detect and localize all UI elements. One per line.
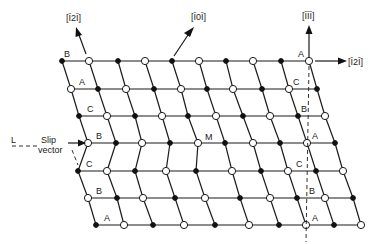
- lattice-column-line: [289, 89, 298, 116]
- atom-filled: [152, 87, 157, 92]
- atom-open: [249, 57, 256, 64]
- atom-filled: [296, 114, 301, 119]
- lattice-column-line: [353, 198, 361, 225]
- stacking-label-left: B: [96, 186, 102, 196]
- atom-filled: [133, 114, 138, 119]
- atom-filled: [115, 196, 120, 201]
- atom-open: [228, 167, 235, 174]
- lattice-column-line: [89, 61, 98, 89]
- lattice-column-line: [145, 61, 154, 89]
- lattice-column-line: [79, 116, 88, 143]
- lattice-column-line: [307, 143, 316, 171]
- lattice-column-line: [107, 116, 116, 143]
- lattice-column-line: [309, 61, 317, 89]
- direction-arrow-121-left: [76, 27, 87, 54]
- atom-open: [103, 112, 110, 119]
- lattice-column-line: [88, 198, 96, 225]
- lattice-column-line: [117, 198, 124, 225]
- lattice-column-line: [261, 171, 270, 198]
- direction-arrow-121-right: [315, 58, 347, 65]
- atom-filled: [205, 87, 210, 92]
- stacking-label-left: C: [86, 159, 93, 169]
- atom-open: [120, 221, 127, 228]
- stacking-label-left: B: [96, 131, 102, 141]
- atom-open: [285, 85, 292, 92]
- atom-filled: [194, 169, 199, 174]
- atom-filled: [168, 141, 173, 146]
- atom-open: [177, 85, 184, 92]
- atom-open: [284, 167, 291, 174]
- stacking-label-right: B: [309, 186, 315, 196]
- lattice-column-line: [240, 198, 249, 225]
- lattice-column-line: [126, 89, 135, 116]
- atom-open: [357, 221, 364, 228]
- atom-open: [138, 139, 145, 146]
- lattice-lines: [62, 61, 361, 225]
- lattice-column-line: [253, 61, 262, 89]
- lattice-column-line: [107, 171, 117, 198]
- lattice-column-line: [166, 171, 175, 198]
- lattice-column-line: [297, 198, 306, 225]
- lattice-column-line: [172, 61, 181, 89]
- atom-filled: [259, 169, 264, 174]
- lattice-column-line: [196, 171, 205, 198]
- lattice-column-line: [71, 89, 79, 116]
- lattice-column-line: [207, 89, 216, 116]
- lattice-column-line: [135, 143, 142, 171]
- atom-open: [321, 112, 328, 119]
- atom-open: [266, 112, 273, 119]
- stacking-label-left: C: [87, 104, 94, 114]
- lattice-column-line: [280, 143, 288, 171]
- lattice-column-line: [316, 171, 325, 198]
- lattice-column-line: [205, 198, 215, 225]
- slip-vector-annotation: L Slip vector: [11, 135, 86, 165]
- lattice-column-line: [175, 198, 184, 225]
- lattice-column-line: [118, 61, 126, 89]
- atom-open: [229, 85, 236, 92]
- lattice-column-line: [325, 116, 335, 143]
- lattice-column-line: [335, 143, 343, 171]
- atom-filled: [333, 141, 338, 146]
- atom-filled: [279, 59, 284, 64]
- atom-filled: [186, 114, 191, 119]
- lattice-column-line: [325, 198, 334, 225]
- lattice-column-line: [253, 143, 261, 171]
- atom-filled: [223, 141, 228, 146]
- atom-filled: [173, 196, 178, 201]
- lattice-column-line: [143, 198, 153, 225]
- lattice-column-line: [233, 89, 243, 116]
- lattice-column-line: [298, 116, 307, 143]
- stacking-label-right: A: [298, 49, 304, 59]
- lattice-column-line: [232, 171, 240, 198]
- stacking-labels: BAACCBBACCBBAA: [64, 49, 318, 223]
- atom-filled: [151, 223, 156, 228]
- direction-label-101: [Ī0Ī]: [191, 12, 206, 22]
- direction-arrow-111: [306, 25, 313, 57]
- lattice-column-line: [226, 61, 233, 89]
- direction-label-121-right: [Ī2Ī]: [348, 57, 363, 67]
- atom-filled: [278, 141, 283, 146]
- lattice-column-line: [162, 116, 170, 143]
- stacking-label-right: A: [312, 213, 318, 223]
- lattice-column-line: [225, 143, 232, 171]
- twin-boundary-diagram: [Ī2Ī] [Ī0Ī] [ĪĪĪ] [Ī2Ī] L Slip vector M …: [0, 0, 370, 244]
- lattice-column-line: [188, 116, 198, 143]
- lattice-column-line: [154, 89, 162, 116]
- atom-open: [103, 167, 110, 174]
- lattice-column-line: [270, 116, 280, 143]
- atom-open: [245, 221, 252, 228]
- lattice-column-line: [196, 143, 198, 171]
- atom-filled: [213, 223, 218, 228]
- slip-label-line1: Slip: [41, 135, 56, 145]
- stacking-label-left: A: [104, 213, 110, 223]
- lattice-column-line: [181, 89, 188, 116]
- atom-filled: [351, 196, 356, 201]
- atom-filled: [94, 223, 99, 228]
- stacking-label-right: A: [312, 131, 318, 141]
- atom-filled: [314, 169, 319, 174]
- stacking-label-right: C: [296, 159, 303, 169]
- stacking-label-left: B: [64, 49, 70, 59]
- atom-open: [266, 194, 273, 201]
- atom-filled: [133, 169, 138, 174]
- atom-filled: [315, 87, 320, 92]
